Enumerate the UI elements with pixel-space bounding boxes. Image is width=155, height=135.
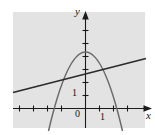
y-unit-tick-label: 1 [72, 88, 77, 98]
x-axis-label: x [146, 110, 151, 121]
straight-line [13, 59, 146, 93]
graph-figure: y x 0 1 1 [0, 0, 155, 135]
x-unit-tick-label: 1 [100, 112, 105, 122]
origin-tick-label: 0 [75, 109, 80, 119]
y-axis-label: y [75, 6, 80, 17]
